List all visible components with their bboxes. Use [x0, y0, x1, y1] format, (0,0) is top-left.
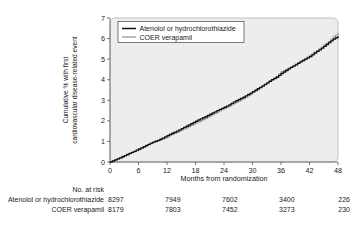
y-axis-ticks — [107, 18, 110, 162]
x-tick-label-0: 0 — [108, 166, 112, 175]
risk-table-cell-r0-c3: 3400 — [279, 196, 295, 203]
x-tick-label-42: 42 — [306, 166, 314, 175]
risk-table-values: 82977949760234002268179780374523273230 — [108, 196, 350, 213]
risk-table-cell-r0-c0: 8297 — [108, 196, 124, 203]
y-axis-title-line2: cardiovascular disease-related event — [71, 36, 78, 144]
y-tick-label-2: 2 — [101, 116, 105, 125]
y-tick-label-6: 6 — [101, 34, 105, 43]
legend-label-atenolol-hydrochlorothiazide: Atenolol or hydrochlorothiazide — [140, 25, 236, 33]
y-axis-tick-labels: 01234567 — [101, 14, 105, 167]
risk-table-cell-r1-c3: 3273 — [279, 206, 295, 213]
risk-table-cell-r1-c1: 7803 — [165, 206, 181, 213]
y-tick-label-4: 4 — [101, 75, 105, 84]
chart-svg: 01234567 0612182430364248 Atenolol or hy… — [0, 0, 360, 227]
legend-label-coer-verapamil: COER verapamil — [140, 34, 193, 42]
risk-table-cell-r0-c2: 7602 — [222, 196, 238, 203]
risk-table-cell-r1-c2: 7452 — [222, 206, 238, 213]
y-tick-label-1: 1 — [101, 137, 105, 146]
risk-table-row-label-0: Atenolol or hydrochlorothiazide — [8, 196, 104, 204]
risk-table-heading: No. at risk — [72, 186, 104, 193]
x-axis-title: Months from randomization — [180, 174, 267, 183]
risk-table-row-label-1: COER verapamil — [51, 206, 104, 214]
y-axis-title-line1: Cumulative % with first — [62, 56, 69, 123]
risk-table-cell-r1-c0: 8179 — [108, 206, 124, 213]
legend: Atenolol or hydrochlorothiazide COER ver… — [118, 22, 244, 43]
risk-table-cell-r0-c4: 226 — [338, 196, 350, 203]
survival-curve-figure: 01234567 0612182430364248 Atenolol or hy… — [0, 0, 360, 227]
x-axis-ticks — [110, 162, 338, 165]
x-tick-label-12: 12 — [163, 166, 171, 175]
y-tick-label-3: 3 — [101, 96, 105, 105]
risk-table-cell-r0-c1: 7949 — [165, 196, 181, 203]
x-tick-label-36: 36 — [277, 166, 285, 175]
y-tick-label-7: 7 — [101, 14, 105, 23]
risk-table: No. at risk Atenolol or hydrochlorothiaz… — [8, 186, 350, 214]
risk-table-cell-r1-c4: 230 — [338, 206, 350, 213]
y-tick-label-0: 0 — [101, 158, 105, 167]
y-tick-label-5: 5 — [101, 55, 105, 64]
x-tick-label-48: 48 — [334, 166, 342, 175]
x-tick-label-6: 6 — [137, 166, 141, 175]
